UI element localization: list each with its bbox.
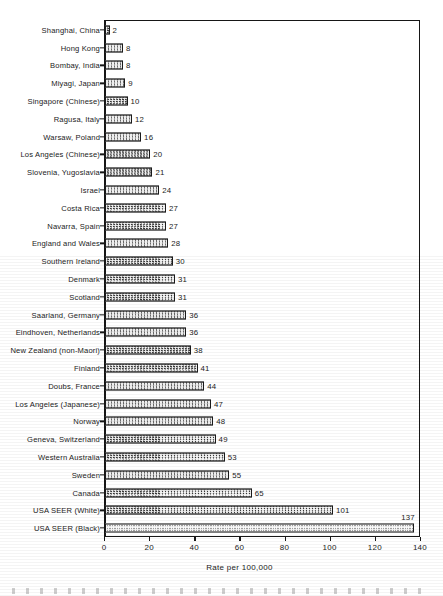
bar-value-label: 27 — [169, 221, 178, 230]
category-label: Los Angeles (Japanese) — [15, 399, 100, 408]
category-label: Denmark — [68, 274, 100, 283]
category-label: USA SEER (White) — [33, 506, 100, 515]
bar-container: 65 — [105, 488, 264, 497]
x-axis-tick-mark — [104, 537, 105, 541]
y-axis-tick — [100, 278, 104, 279]
bar-value-label: 101 — [336, 506, 350, 515]
x-axis-tick-mark — [420, 537, 421, 541]
y-axis-tick — [100, 118, 104, 119]
category-label: Warsaw, Poland — [43, 132, 100, 141]
category-label: Finland — [74, 363, 100, 372]
y-axis-tick — [100, 492, 104, 493]
y-axis-tick — [100, 65, 104, 66]
bar-container: 12 — [105, 114, 144, 123]
category-label: New Zealand (non-Maori) — [10, 346, 100, 355]
bar-row: Eindhoven, Netherlands36 — [0, 323, 443, 341]
y-axis-tick — [100, 154, 104, 155]
bar-container: 21 — [105, 168, 164, 177]
x-axis-tick-label: 40 — [190, 543, 200, 552]
bar-value-label: 20 — [153, 150, 162, 159]
category-label: Israel — [81, 186, 100, 195]
bar-value-label: 28 — [171, 239, 180, 248]
y-axis-tick — [100, 510, 104, 511]
bar-container: 10 — [105, 97, 140, 106]
bar-container: 53 — [105, 452, 237, 461]
bar-value-label: 24 — [162, 186, 171, 195]
bar-row: Denmark31 — [0, 270, 443, 288]
bar — [105, 239, 168, 248]
bar — [105, 292, 175, 301]
bar-container: 36 — [105, 310, 198, 319]
bar-row: New Zealand (non-Maori)38 — [0, 341, 443, 359]
bar-container: 48 — [105, 417, 225, 426]
bar-rows: Shanghai, China2Hong Kong8Bombay, India8… — [0, 21, 443, 537]
bar-row: Los Angeles (Chinese)20 — [0, 146, 443, 164]
bar-value-label: 27 — [169, 203, 178, 212]
category-label: Canada — [72, 488, 100, 497]
bar-container: 137 — [105, 524, 414, 533]
category-label: Norway — [73, 417, 100, 426]
bar-container: 30 — [105, 257, 185, 266]
bar — [105, 114, 132, 123]
x-axis-tick-mark — [330, 537, 331, 541]
bar-value-label: 21 — [155, 168, 164, 177]
bar-container: 27 — [105, 203, 178, 212]
bar-container: 2 — [105, 25, 117, 34]
bar-row: Navarra, Spain27 — [0, 217, 443, 235]
bar — [105, 97, 128, 106]
bar-container: 9 — [105, 79, 133, 88]
page-edge-artifact — [12, 588, 432, 594]
bar — [105, 186, 159, 195]
y-axis-tick — [100, 243, 104, 244]
bar-row: Miyagi, Japan9 — [0, 74, 443, 92]
x-axis-tick-mark — [239, 537, 240, 541]
bar-container: 101 — [105, 506, 350, 515]
category-label: Slovenia, Yugoslavia — [27, 168, 100, 177]
bar-row: Slovenia, Yugoslavia21 — [0, 163, 443, 181]
category-label: Navarra, Spain — [47, 221, 100, 230]
category-label: Shanghai, China — [42, 25, 100, 34]
bar-row: Costa Rica27 — [0, 199, 443, 217]
bar-value-label: 12 — [135, 114, 144, 123]
bar-value-label: 53 — [228, 452, 237, 461]
category-label: England and Wales — [32, 239, 100, 248]
bar-row: Shanghai, China2 — [0, 21, 443, 39]
bar — [105, 310, 186, 319]
y-axis-tick — [100, 403, 104, 404]
bar — [105, 381, 204, 390]
bar-value-label: 41 — [201, 363, 210, 372]
x-axis-tick-label: 140 — [413, 543, 427, 552]
bar-container: 27 — [105, 221, 178, 230]
category-label: Ragusa, Italy — [54, 114, 100, 123]
bar — [105, 363, 198, 372]
bar-value-label: 9 — [128, 79, 133, 88]
x-axis-title: Rate per 100,000 — [0, 563, 443, 572]
bar-container: 36 — [105, 328, 198, 337]
bar-chart: Shanghai, China2Hong Kong8Bombay, India8… — [0, 0, 443, 596]
bar-row: Western Australia53 — [0, 448, 443, 466]
bar — [105, 435, 216, 444]
bar-container: 55 — [105, 470, 241, 479]
bar-row: Geneva, Switzerland49 — [0, 430, 443, 448]
bar-container: 8 — [105, 43, 131, 52]
bar-row: Scotland31 — [0, 288, 443, 306]
bar — [105, 470, 229, 479]
y-axis-tick — [100, 438, 104, 439]
y-axis-tick — [100, 136, 104, 137]
bar — [105, 79, 125, 88]
x-axis-tick-mark — [285, 537, 286, 541]
category-label: Singapore (Chinese) — [28, 97, 101, 106]
bar-value-label: 55 — [232, 470, 241, 479]
bar-value-label: 2 — [113, 25, 118, 34]
y-axis-tick — [100, 527, 104, 528]
category-label: Eindhoven, Netherlands — [16, 328, 100, 337]
bar — [105, 203, 166, 212]
bar-row: Saarland, Germany36 — [0, 306, 443, 324]
bar — [105, 274, 175, 283]
bar — [105, 417, 213, 426]
bar-row: Canada65 — [0, 484, 443, 502]
x-axis-tick-label: 0 — [102, 543, 107, 552]
bar-value-label: 36 — [189, 328, 198, 337]
bar-row: Israel24 — [0, 181, 443, 199]
bar — [105, 61, 123, 70]
